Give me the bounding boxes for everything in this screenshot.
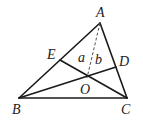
dashed-segment-ao <box>87 23 100 78</box>
angle-label-a: a <box>78 50 85 65</box>
segment-ce <box>60 60 127 98</box>
label-e-point: E <box>46 47 56 62</box>
label-d-point: D <box>118 54 129 69</box>
triangle-diagram: A B C D E O a b <box>0 0 143 121</box>
label-a-vertex: A <box>95 5 105 20</box>
diagram-svg: A B C D E O a b <box>0 0 143 121</box>
label-c-vertex: C <box>121 102 131 117</box>
angle-label-b: b <box>95 52 102 67</box>
label-o-point: O <box>80 82 90 97</box>
label-b-vertex: B <box>12 102 21 117</box>
segment-bd <box>19 67 116 98</box>
